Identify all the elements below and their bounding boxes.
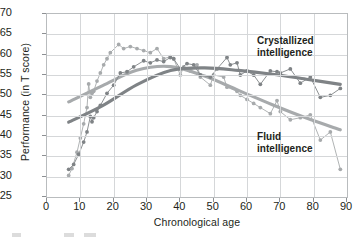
annotation-fluid-line2: intelligence: [257, 143, 313, 155]
grid-line-vertical: [147, 14, 148, 197]
y-axis-tick-label: 45: [0, 108, 12, 120]
y-axis-tick-label: 65: [0, 26, 12, 38]
x-axis-tick-mark: [46, 198, 47, 202]
x-axis-tick-mark: [146, 198, 147, 202]
x-axis-tick-mark: [279, 198, 280, 202]
grid-line-vertical: [114, 14, 115, 197]
x-axis-tick-mark: [246, 198, 247, 202]
y-axis-title: Performance (in T score): [19, 17, 31, 187]
grid-line-vertical: [180, 14, 181, 197]
y-axis-tick-label: 60: [0, 47, 12, 59]
annotation-crystallized-line2: intelligence: [257, 47, 314, 59]
grid-line-vertical: [80, 14, 81, 197]
grid-line-horizontal: [47, 75, 347, 76]
grid-line-horizontal: [47, 95, 347, 96]
x-axis-tick-mark: [346, 198, 347, 202]
cropped-caption-remnant: [12, 233, 116, 237]
grid-line-horizontal: [47, 156, 347, 157]
figure-fluid-crystallized-intelligence: Performance (in T score) Chronological a…: [0, 0, 364, 243]
x-axis-tick-mark: [179, 198, 180, 202]
x-axis-title: Chronological age: [46, 216, 348, 228]
annotation-crystallized-line1: Crystallized: [257, 35, 314, 47]
grid-line-vertical: [247, 14, 248, 197]
grid-line-vertical: [314, 14, 315, 197]
y-axis-tick-label: 35: [0, 148, 12, 160]
y-axis-tick-label: 30: [0, 169, 12, 181]
y-axis-tick-label: 40: [0, 128, 12, 140]
x-axis-tick-mark: [213, 198, 214, 202]
grid-line-horizontal: [47, 177, 347, 178]
x-axis-tick-mark: [79, 198, 80, 202]
y-axis-tick-label: 50: [0, 87, 12, 99]
y-axis-tick-label: 55: [0, 67, 12, 79]
grid-line-horizontal: [47, 116, 347, 117]
x-axis-tick-mark: [113, 198, 114, 202]
annotation-fluid-line1: Fluid: [257, 131, 313, 143]
y-axis-tick-label: 25: [0, 189, 12, 201]
grid-line-vertical: [214, 14, 215, 197]
x-axis-tick-mark: [313, 198, 314, 202]
annotation-crystallized-intelligence: Crystallized intelligence: [257, 35, 314, 58]
y-axis-tick-label: 70: [0, 6, 12, 18]
annotation-fluid-intelligence: Fluid intelligence: [257, 131, 313, 154]
